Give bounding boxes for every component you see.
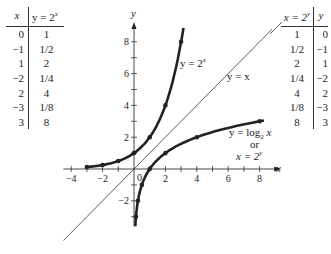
data-point [116, 159, 121, 164]
x-tick-label: 2 [163, 173, 168, 184]
data-point [132, 151, 137, 156]
data-point [140, 183, 145, 188]
x-tick-label: −4 [66, 173, 77, 184]
x-tick-label: −2 [97, 173, 108, 184]
y-tick-label: 6 [124, 68, 129, 79]
data-point [147, 167, 152, 172]
y-tick-label: −2 [118, 195, 129, 206]
origin-label: 0 [137, 172, 142, 183]
log-curve-or: or [250, 138, 260, 150]
data-point [163, 103, 168, 108]
data-point [195, 135, 200, 140]
identity-line-label: y = x [227, 70, 250, 82]
data-point [85, 165, 90, 170]
x-tick-label: 8 [257, 173, 262, 184]
y-tick-label: 4 [124, 100, 129, 111]
log-curve-alt-label: x = 2y [235, 149, 263, 162]
data-point [257, 119, 262, 124]
y-tick-label: 2 [124, 132, 129, 143]
function-graph: −4−22468−22468 y = 2x y = x y = log2 x o… [0, 0, 331, 254]
data-point [134, 214, 139, 219]
y-axis-arrow-icon [132, 22, 137, 29]
x-axis-label: x [275, 162, 281, 174]
data-point [147, 135, 152, 140]
data-point [136, 199, 141, 204]
data-point [179, 40, 184, 45]
data-point [100, 163, 105, 168]
x-tick-label: 6 [226, 173, 231, 184]
y-axis-label: y [130, 7, 136, 19]
exp-curve-label: y = 2x [180, 56, 207, 69]
x-tick-label: 4 [194, 173, 199, 184]
table-pointer-line [270, 22, 282, 34]
data-point [163, 151, 168, 156]
y-tick-label: 8 [124, 36, 129, 47]
